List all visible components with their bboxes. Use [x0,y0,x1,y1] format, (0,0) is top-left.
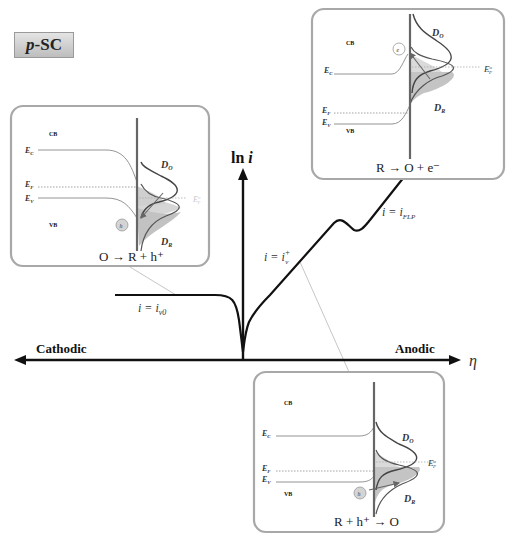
vb-label: VB [346,128,354,134]
eredox-label: EoF [483,64,493,75]
anodic-label: Anodic [395,341,435,356]
rise-label: i = i+v [264,248,290,266]
eredox-label: EoF [427,458,437,469]
panel-bottom: CB EC EF EV VB h DO DR EoF R + h⁺ → O [254,372,444,532]
connector-bottom [300,262,349,372]
diagram-canvas: Cathodic Anodic η ln i i = iv0 i = i+v i… [0,0,514,546]
cb-label: CB [49,131,57,137]
cb-label: CB [284,400,292,406]
flp-label: i = iFLP [382,205,416,221]
eta-label: η [469,352,477,370]
panel-top-right: CB EC EF EV VB e DO DR EoF R → O + e⁻ [312,9,504,179]
ln-i-label: ln i [231,149,253,166]
connector-left [130,267,176,295]
hole-label: h [358,491,361,497]
cathodic-label: Cathodic [36,341,87,356]
vb-label: VB [49,222,57,228]
hole-label: h [120,223,123,229]
eredox-label: EoF [192,195,201,205]
cb-label: CB [346,40,354,46]
reaction-bottom: R + h⁺ → O [334,514,399,529]
electron-label: e [397,47,400,53]
panel-left: CB EC EF EV VB h DO DR EoF O → R + h⁺ [11,106,209,266]
plateau-label: i = iv0 [138,301,166,317]
x-axis [14,355,461,365]
reaction-top-right: R → O + e⁻ [376,160,440,175]
vb-label: VB [284,491,292,497]
reaction-left: O → R + h⁺ [99,249,164,264]
